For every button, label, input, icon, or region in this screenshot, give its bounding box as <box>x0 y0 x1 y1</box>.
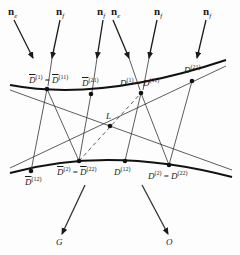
ray-label-ne-1: ne <box>8 6 17 20</box>
label-dbar2-dbar22: D(2) = D(22) <box>57 166 97 177</box>
label-d12: D(12) <box>114 166 131 177</box>
ray-label-nf-1: nf <box>56 6 64 20</box>
label-dbar21: D(21) <box>82 77 99 88</box>
label-L: L <box>106 112 111 121</box>
label-d2-d22: D(2) = D(22) <box>148 170 188 181</box>
label-G: G <box>56 238 63 247</box>
incoming-arrows <box>14 20 206 58</box>
diagram-lines <box>0 0 240 255</box>
optics-diagram: ne nf nf ne nf nf D(1) = D(11) D(21) D(1… <box>0 0 240 255</box>
ray-label-nf-4: nf <box>203 6 211 20</box>
ray-label-nf-2: nf <box>97 6 105 20</box>
label-O: O <box>166 238 173 247</box>
label-d21: D(21) <box>184 64 201 75</box>
ray-label-ne-2: ne <box>111 6 120 20</box>
label-dbar12: D(12) <box>25 176 42 187</box>
label-dbar1-dbar11: D(1) = D(11) <box>29 74 68 85</box>
label-d1-d11: D(1) = D(11) <box>120 77 159 88</box>
ray-label-nf-3: nf <box>154 6 162 20</box>
